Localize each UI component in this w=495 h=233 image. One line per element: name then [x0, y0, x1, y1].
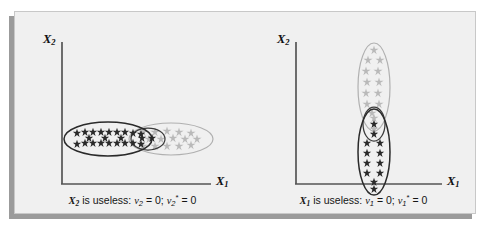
figure-plate: X2 X1 X2 is useless: ν2 = 0; ν2* = 0: [14, 11, 476, 214]
panel-caption: X1 is useless: ν1 = 0; ν1* = 0: [250, 193, 477, 208]
cluster-points-light: [361, 45, 384, 133]
y-axis-label: X2: [277, 32, 290, 47]
panel-caption: X2 is useless: ν2 = 0; ν2* = 0: [15, 193, 250, 208]
cluster-ellipse-dark: [64, 122, 152, 156]
panel-left: X2 X1 X2 is useless: ν2 = 0; ν2* = 0: [15, 12, 250, 215]
x-axis-label: X1: [447, 174, 460, 189]
panel-right: X2 X1 X1 is useless: ν1 = 0; ν1* = 0: [250, 12, 477, 215]
x-axis-label: X1: [216, 174, 229, 189]
figure-root: X2 X1 X2 is useless: ν2 = 0; ν2* = 0: [0, 0, 495, 233]
y-axis-label: X2: [43, 32, 56, 47]
